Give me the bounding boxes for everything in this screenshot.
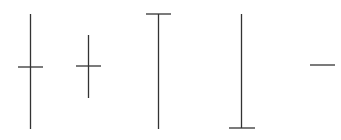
long-legged-doji xyxy=(18,14,43,129)
doji-patterns-diagram xyxy=(0,0,341,140)
dragonfly-doji xyxy=(229,14,255,128)
gravestone-doji xyxy=(146,14,171,129)
doji xyxy=(76,35,101,98)
